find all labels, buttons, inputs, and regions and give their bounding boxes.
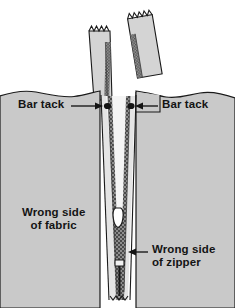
bar-tack-right-label: Bar tack xyxy=(162,98,208,111)
bar-tack-right-dot xyxy=(127,103,134,109)
slider-body xyxy=(113,208,123,228)
bar-tack-left-label: Bar tack xyxy=(18,98,64,111)
zipper-slider xyxy=(113,208,123,228)
fabric-right-folded-flap xyxy=(136,92,160,112)
fabric-panel-left xyxy=(0,91,100,308)
fabric-panel-right xyxy=(136,91,235,308)
bar-tack-left-dot xyxy=(104,103,111,109)
wrong-side-of-zipper-label: Wrong side of zipper xyxy=(152,243,215,269)
wrong-side-of-fabric-label: Wrong side of fabric xyxy=(22,206,85,232)
bottom-stop-bar xyxy=(115,260,124,266)
zipper-diagram-figure: Bar tack Bar tack Wrong side of fabric W… xyxy=(0,0,235,308)
